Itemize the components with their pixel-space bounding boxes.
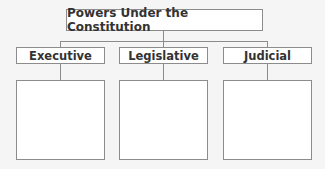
judicial-content-box[interactable]	[223, 80, 312, 160]
executive-header-box: Executive	[16, 47, 105, 64]
connector-horizontal	[60, 41, 268, 42]
connector-executive-down	[60, 64, 61, 80]
connector-title-down	[163, 31, 164, 41]
connector-judicial-down	[267, 64, 268, 80]
title-box: Powers Under the Constitution	[66, 9, 263, 31]
legislative-content-box[interactable]	[119, 80, 208, 160]
executive-content-box[interactable]	[16, 80, 105, 160]
legislative-label: Legislative	[128, 49, 199, 63]
connector-legislative-down	[163, 64, 164, 80]
executive-label: Executive	[29, 49, 92, 63]
legislative-header-box: Legislative	[119, 47, 208, 64]
title-text: Powers Under the Constitution	[67, 6, 262, 34]
judicial-label: Judicial	[244, 49, 291, 63]
judicial-header-box: Judicial	[223, 47, 312, 64]
